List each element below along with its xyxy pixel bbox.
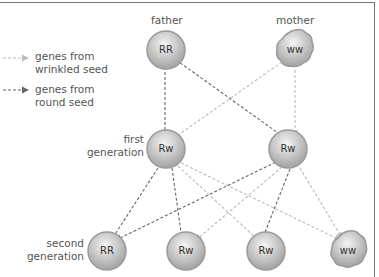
father-label: father [151,14,183,27]
first-generation-line1: first [76,133,144,146]
second-generation-label: second generation [16,237,84,263]
second-generation-line2: generation [16,250,84,263]
legend-round-line2: round seed [35,96,94,109]
first-generation-label: first generation [76,133,144,159]
f2-4-genotype: ww [328,245,368,256]
legend-wrinkled-line1: genes from [35,50,108,63]
legend-round-line1: genes from [35,83,94,96]
f1-left-genotype: Rw [146,143,186,154]
second-generation-line1: second [16,237,84,250]
legend-wrinkled-line2: wrinkled seed [35,63,108,76]
f1-right-genotype: Rw [268,143,308,154]
inheritance-diagram [0,0,379,277]
first-generation-line2: generation [76,146,144,159]
father-genotype: RR [146,44,186,55]
f2-2-genotype: Rw [166,245,206,256]
legend-wrinkled-label: genes from wrinkled seed [35,50,108,76]
f2-3-genotype: Rw [246,245,286,256]
f2-1-genotype: RR [87,245,127,256]
mother-genotype: ww [275,44,315,55]
mother-label: mother [276,14,314,27]
legend-round-label: genes from round seed [35,83,94,109]
